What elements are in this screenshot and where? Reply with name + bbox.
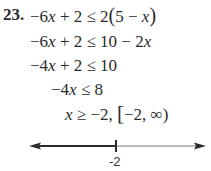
step-3-coef: −4 — [30, 56, 48, 75]
tick-label: -2 — [109, 154, 121, 169]
problem-number: 23. — [3, 5, 24, 25]
step-2-coef: −6 — [30, 32, 48, 51]
step-4-coef: −4 — [51, 80, 69, 99]
step-4-rest: ≤ 8 — [77, 80, 103, 99]
step-3: −4x + 2 ≤ 10 — [30, 56, 117, 76]
step-1-inner: 5 − — [115, 7, 142, 26]
step-4: −4x ≤ 8 — [51, 80, 103, 100]
step-1-close-paren: ) — [149, 4, 156, 26]
number-line — [0, 130, 211, 171]
step-2-var2: x — [144, 32, 152, 51]
step-4-var: x — [69, 80, 77, 99]
step-5-solution: x ≥ −2, [−2, ∞) — [65, 103, 168, 125]
step-1-var: x — [48, 7, 56, 26]
step-1-mid: + 2 ≤ 2 — [56, 7, 109, 26]
step-1: −6x + 2 ≤ 2(5 − x) — [30, 5, 156, 27]
step-1-coef: −6 — [30, 7, 48, 26]
step-2-var: x — [48, 32, 56, 51]
interval-rest: −2, ∞) — [124, 105, 168, 124]
step-3-var: x — [48, 56, 56, 75]
step-3-rest: + 2 ≤ 10 — [56, 56, 117, 75]
step-5-var: x — [65, 105, 73, 124]
step-2: −6x + 2 ≤ 10 − 2x — [30, 32, 151, 52]
step-2-mid: + 2 ≤ 10 − 2 — [56, 32, 144, 51]
interval-open-bracket: [ — [117, 101, 124, 125]
step-5-ineq: ≥ −2, — [73, 105, 117, 124]
